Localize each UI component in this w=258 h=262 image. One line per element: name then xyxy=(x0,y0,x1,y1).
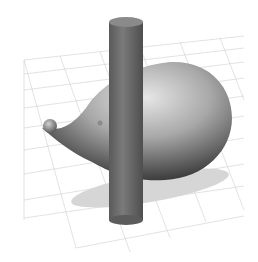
render-viewport xyxy=(0,0,258,262)
hedgehog-eye xyxy=(98,121,103,126)
cylinder-top xyxy=(109,17,143,27)
hedgehog-nose xyxy=(43,119,57,133)
cylinder xyxy=(109,22,143,220)
cylinder-bottom xyxy=(109,215,143,225)
scene-svg xyxy=(0,0,258,262)
